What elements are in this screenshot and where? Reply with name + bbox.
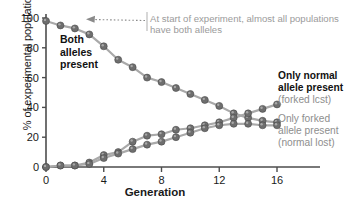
data-point-highlight (231, 121, 233, 123)
data-point-highlight (130, 147, 132, 149)
data-point-highlight (275, 123, 277, 125)
data-point-s0-g12 (216, 102, 223, 109)
data-point-highlight (174, 127, 176, 129)
data-point-s0-g2 (71, 25, 78, 32)
data-point-highlight (130, 65, 132, 67)
data-point-s2-g5 (115, 150, 122, 157)
x-tick-label-8: 8 (158, 174, 164, 186)
data-point-s0-g4 (100, 43, 107, 50)
data-point-highlight (231, 116, 233, 118)
data-point-highlight (246, 111, 248, 113)
data-point-s0-g6 (129, 64, 136, 71)
annotation-arrow (86, 12, 147, 31)
data-point-highlight (260, 107, 262, 109)
arrow-line (92, 20, 145, 21)
data-point-s2-g7 (144, 141, 151, 148)
data-point-highlight (188, 130, 190, 132)
data-point-highlight (145, 133, 147, 135)
both-alleles-line2: alleles (60, 46, 92, 58)
data-point-s2-g11 (201, 125, 208, 132)
data-point-highlight (145, 75, 147, 77)
data-point-s0-g7 (144, 74, 151, 81)
data-point-s0-g0 (43, 17, 50, 24)
data-point-highlight (188, 126, 190, 128)
data-point-highlight (275, 102, 277, 104)
data-point-highlight (102, 44, 104, 46)
data-point-s1-g9 (172, 126, 179, 133)
both-alleles-line1: Both (60, 33, 84, 45)
data-point-s2-g2 (71, 162, 78, 169)
data-point-highlight (58, 163, 60, 165)
forked-only-line2: allele present (278, 125, 339, 137)
data-point-s2-g15 (259, 122, 266, 129)
data-point-highlight (87, 162, 89, 164)
data-point-highlight (217, 123, 219, 125)
data-point-highlight (73, 163, 75, 165)
data-point-s2-g8 (158, 138, 165, 145)
x-tick-label-16: 16 (271, 174, 283, 186)
normal-only-line3: (forked lcst) (278, 94, 343, 106)
data-point-s1-g8 (158, 131, 165, 138)
x-axis-title: Generation (95, 186, 215, 198)
data-point-s2-g4 (100, 155, 107, 162)
data-point-s1-g15 (259, 105, 266, 112)
data-point-highlight (174, 135, 176, 137)
data-point-highlight (217, 104, 219, 106)
y-tick-label-20: 20 (27, 131, 39, 143)
data-point-s2-g13 (230, 120, 237, 127)
x-tick-label-4: 4 (101, 174, 107, 186)
data-point-highlight (116, 151, 118, 153)
data-point-highlight (145, 142, 147, 144)
forked-only-line1: Only forked (278, 113, 339, 125)
x-tick-label-0: 0 (43, 174, 49, 186)
data-point-s2-g14 (245, 120, 252, 127)
data-point-s2-g9 (172, 134, 179, 141)
data-point-s2-g12 (216, 122, 223, 129)
data-point-highlight (159, 80, 161, 82)
both-alleles-label: Both alleles present (60, 33, 98, 71)
data-point-s0-g1 (57, 22, 64, 29)
data-point-highlight (116, 57, 118, 59)
data-point-s0-g9 (172, 85, 179, 92)
data-point-s0-g11 (201, 96, 208, 103)
data-point-highlight (73, 26, 75, 28)
data-point-s2-g1 (57, 162, 64, 169)
data-point-highlight (102, 156, 104, 158)
normal-only-line2: allele present (278, 82, 343, 94)
y-axis-title: % of experimental populations (21, 0, 33, 133)
forked-only-label: Only forked allele present (normal lost) (278, 113, 339, 148)
annotation-start-note: At start of experiment, almost all popul… (150, 13, 355, 36)
chart-figure: % of experimental populations Generation… (0, 0, 364, 212)
normal-only-label: Only normal allele present (forked lcst) (278, 70, 343, 105)
data-point-highlight (44, 165, 46, 167)
data-point-s1-g6 (129, 138, 136, 145)
data-point-s0-g10 (187, 90, 194, 97)
data-point-highlight (203, 98, 205, 100)
data-point-highlight (188, 92, 190, 94)
data-point-highlight (246, 121, 248, 123)
data-point-s1-g7 (144, 132, 151, 139)
data-point-highlight (58, 23, 60, 25)
x-tick-label-12: 12 (213, 174, 225, 186)
y-tick-label-0: 0 (33, 161, 39, 173)
data-point-highlight (260, 119, 262, 121)
data-point-highlight (130, 139, 132, 141)
data-point-s0-g5 (115, 56, 122, 63)
data-point-s2-g0 (43, 164, 50, 171)
data-point-highlight (203, 126, 205, 128)
data-point-highlight (159, 132, 161, 134)
data-point-s2-g6 (129, 146, 136, 153)
both-alleles-line3: present (60, 58, 98, 70)
data-point-s2-g3 (86, 161, 93, 168)
data-point-highlight (231, 111, 233, 113)
data-point-s1-g14 (245, 110, 252, 117)
data-point-s2-g10 (187, 129, 194, 136)
data-point-highlight (260, 123, 262, 125)
normal-only-line1: Only normal (278, 70, 343, 82)
data-point-highlight (159, 139, 161, 141)
forked-only-line3: (normal lost) (278, 137, 339, 149)
data-point-s0-g8 (158, 79, 165, 86)
data-point-highlight (44, 19, 46, 21)
data-point-highlight (174, 86, 176, 88)
arrow-head (86, 16, 95, 23)
